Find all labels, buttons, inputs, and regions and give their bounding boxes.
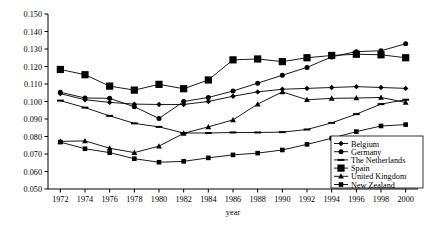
- data-point-marker: [206, 95, 211, 100]
- x-tick-label: 1972: [52, 195, 68, 204]
- data-point-marker: [131, 122, 138, 124]
- y-tick-label: 0.150: [24, 10, 42, 19]
- chart-figure: 0.0500.0600.0700.0800.0900.1000.1100.120…: [0, 0, 430, 241]
- x-tick-label: 1998: [373, 195, 389, 204]
- data-point-marker: [180, 85, 187, 92]
- data-point-marker: [279, 131, 286, 133]
- x-tick-label: 1988: [249, 195, 265, 204]
- x-tick-label: 1994: [323, 195, 339, 204]
- x-tick-label: 2000: [397, 195, 413, 204]
- x-tick-label: 1996: [348, 195, 364, 204]
- data-point-marker: [83, 96, 88, 101]
- data-point-marker: [255, 151, 260, 156]
- x-tick-label: 1992: [299, 195, 315, 204]
- y-tick-label: 0.090: [24, 115, 42, 124]
- data-point-marker: [305, 65, 310, 70]
- data-point-marker: [82, 107, 89, 109]
- data-point-marker: [231, 89, 236, 94]
- x-tick-label: 1980: [151, 195, 167, 204]
- data-point-marker: [230, 131, 237, 133]
- y-tick-label: 0.070: [24, 150, 42, 159]
- legend-marker-icon: [339, 182, 344, 187]
- data-point-marker: [132, 156, 137, 161]
- x-tick-label: 1982: [175, 195, 191, 204]
- legend-label: New Zealand: [351, 181, 395, 190]
- data-point-marker: [157, 116, 162, 121]
- data-point-marker: [205, 132, 212, 134]
- data-point-marker: [131, 87, 138, 94]
- y-tick-label: 0.060: [24, 168, 42, 177]
- data-point-marker: [132, 104, 137, 109]
- data-point-marker: [255, 81, 260, 86]
- data-point-marker: [206, 156, 211, 161]
- data-point-marker: [354, 129, 359, 134]
- data-point-marker: [106, 83, 113, 90]
- data-point-marker: [378, 103, 385, 105]
- data-point-marker: [354, 84, 359, 89]
- legend-marker-icon: [337, 165, 344, 172]
- data-point-marker: [205, 76, 212, 83]
- data-point-marker: [280, 148, 285, 153]
- data-point-marker: [353, 113, 360, 115]
- data-point-marker: [329, 85, 334, 90]
- data-point-marker: [156, 143, 162, 148]
- data-point-marker: [255, 101, 261, 106]
- data-point-marker: [156, 126, 163, 128]
- data-point-marker: [81, 71, 88, 78]
- y-tick-label: 0.080: [24, 133, 42, 142]
- data-point-marker: [155, 81, 162, 88]
- y-tick-label: 0.050: [24, 185, 42, 194]
- data-point-marker: [403, 122, 408, 127]
- x-tick-label: 1974: [77, 195, 93, 204]
- data-point-marker: [57, 66, 64, 73]
- data-point-marker: [181, 99, 186, 104]
- legend-marker-icon: [339, 149, 344, 154]
- data-point-marker: [230, 94, 235, 99]
- y-tick-label: 0.110: [24, 80, 42, 89]
- data-point-marker: [106, 115, 113, 117]
- data-point-marker: [58, 140, 63, 145]
- data-point-marker: [83, 146, 88, 151]
- data-point-marker: [379, 124, 384, 129]
- y-tick-label: 0.100: [24, 98, 42, 107]
- data-point-marker: [231, 153, 236, 158]
- data-point-marker: [157, 160, 162, 165]
- y-tick-label: 0.140: [24, 28, 42, 37]
- legend: BelgiumGermanyThe NetherlandsSpainUnited…: [331, 136, 423, 190]
- line-chart-svg: 0.0500.0600.0700.0800.0900.1000.1100.120…: [0, 0, 430, 241]
- data-point-marker: [402, 54, 409, 61]
- x-tick-label: 1984: [200, 195, 216, 204]
- y-tick-label: 0.120: [24, 63, 42, 72]
- data-point-marker: [328, 122, 335, 124]
- data-point-marker: [328, 52, 335, 59]
- data-point-marker: [279, 58, 286, 65]
- x-tick-label: 1990: [274, 195, 290, 204]
- data-point-marker: [156, 102, 161, 107]
- data-point-marker: [304, 86, 309, 91]
- data-point-marker: [57, 100, 64, 102]
- data-point-marker: [377, 51, 384, 58]
- data-point-marker: [229, 56, 236, 63]
- data-point-marker: [254, 131, 261, 133]
- data-point-marker: [254, 55, 261, 62]
- data-point-marker: [304, 129, 311, 131]
- data-point-marker: [107, 150, 112, 155]
- data-point-marker: [378, 85, 383, 90]
- data-point-marker: [255, 89, 260, 94]
- data-point-marker: [58, 90, 63, 95]
- data-point-marker: [230, 117, 236, 122]
- data-point-marker: [280, 73, 285, 78]
- x-tick-label: 1976: [101, 195, 117, 204]
- x-tick-label: 1978: [126, 195, 142, 204]
- data-point-marker: [181, 159, 186, 164]
- y-tick-label: 0.130: [24, 45, 42, 54]
- x-tick-label: 1986: [225, 195, 241, 204]
- data-point-marker: [303, 54, 310, 61]
- data-point-marker: [305, 142, 310, 147]
- data-point-marker: [107, 96, 112, 101]
- data-point-marker: [403, 86, 408, 91]
- x-axis-title: year: [226, 208, 241, 217]
- legend-marker-icon: [338, 159, 345, 161]
- plot-area: 0.0500.0600.0700.0800.0900.1000.1100.120…: [0, 0, 430, 241]
- data-point-marker: [403, 41, 408, 46]
